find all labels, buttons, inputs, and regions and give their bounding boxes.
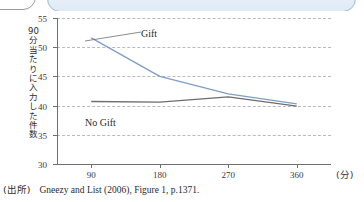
gift-annotation-leader-line (85, 32, 141, 41)
series-label-gift: Gift (141, 28, 157, 39)
y-tick-label: 30 (38, 161, 47, 170)
x-axis-unit-label: (分) (336, 169, 353, 180)
series-line-no-gift (91, 97, 297, 106)
x-tick-label: 360 (290, 170, 304, 180)
source-text: Gneezy and List (2006), Figure 1, p.1371… (39, 185, 199, 195)
series-lines-svg (57, 18, 331, 164)
series-line-gift (91, 38, 297, 104)
series-label-no-gift: No Gift (85, 117, 116, 128)
x-axis-line (57, 164, 331, 165)
y-tick-label: 50 (38, 44, 47, 53)
y-tick-label: 35 (38, 131, 47, 140)
figure-container: 90分当たりに入力した件数 555045403530 90180270360 G… (0, 11, 364, 181)
x-tick-label: 180 (153, 170, 167, 180)
source-note: (出所)Gneezy and List (2006), Figure 1, p.… (3, 184, 199, 196)
x-tick-label: 270 (222, 170, 236, 180)
y-tick-label: 40 (38, 102, 47, 111)
page-header-banner (0, 0, 364, 11)
header-tab-shape (0, 0, 36, 10)
plot-area: 555045403530 90180270360 Gift No Gift (分… (57, 18, 331, 164)
source-prefix: (出所) (3, 184, 30, 195)
y-tick-label: 45 (38, 73, 47, 82)
header-title-pill (47, 0, 356, 11)
x-tick-label: 90 (87, 170, 96, 180)
y-tick-label: 55 (38, 15, 47, 24)
